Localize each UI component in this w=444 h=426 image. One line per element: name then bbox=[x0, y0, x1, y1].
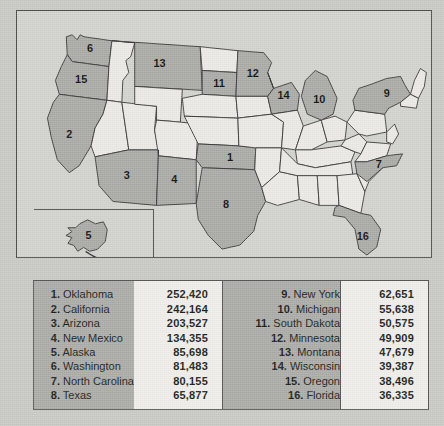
table-row: 7. North Carolina bbox=[43, 374, 134, 388]
map-label-9: 9 bbox=[384, 87, 390, 99]
rank: 11. bbox=[253, 316, 270, 330]
rank: 14. bbox=[270, 359, 287, 373]
map-label-1: 1 bbox=[227, 151, 233, 163]
state-name: New York bbox=[294, 288, 340, 300]
rank: 10. bbox=[276, 302, 293, 316]
state-name: California bbox=[63, 303, 109, 315]
rank: 12. bbox=[269, 331, 286, 345]
rank-table: 1. Oklahoma 2. California 3. Arizona 4. … bbox=[33, 280, 429, 410]
table-row: 4. New Mexico bbox=[43, 331, 134, 345]
map-panel: 1 2 3 4 6 7 8 9 10 11 12 13 14 15 16 5 bbox=[16, 10, 432, 258]
table-row: 14. Wisconsin bbox=[232, 359, 340, 373]
state-name: Oklahoma bbox=[63, 288, 113, 300]
table-value: 50,575 bbox=[379, 316, 414, 330]
table-row: 5. Alaska bbox=[43, 345, 134, 359]
table-value: 203,527 bbox=[167, 316, 208, 330]
map-label-14: 14 bbox=[277, 89, 289, 101]
map-label-3: 3 bbox=[124, 169, 130, 181]
map-label-2: 2 bbox=[66, 128, 72, 140]
table-value: 65,877 bbox=[173, 388, 208, 402]
rank: 8. bbox=[43, 388, 60, 402]
table-row: 12. Minnesota bbox=[232, 331, 340, 345]
table-value: 55,638 bbox=[379, 302, 414, 316]
table-row: 6. Washington bbox=[43, 359, 134, 373]
rank: 7. bbox=[43, 374, 60, 388]
state-name: Oregon bbox=[303, 375, 340, 387]
rank: 3. bbox=[43, 316, 60, 330]
table-row: 13. Montana bbox=[232, 345, 340, 359]
table-value: 252,420 bbox=[167, 287, 208, 301]
table-row: 3. Arizona bbox=[43, 316, 134, 330]
table-col-names-right: 9. New York 10. Michigan 11. South Dakot… bbox=[223, 281, 341, 409]
rank: 4. bbox=[43, 331, 60, 345]
map-label-15: 15 bbox=[75, 73, 87, 85]
state-name: Alaska bbox=[62, 346, 95, 358]
table-value: 38,496 bbox=[379, 374, 414, 388]
rank: 13. bbox=[277, 345, 294, 359]
map-label-10: 10 bbox=[313, 93, 325, 105]
table-value: 36,335 bbox=[379, 388, 414, 402]
rank: 9. bbox=[273, 287, 290, 301]
rank: 16. bbox=[286, 388, 303, 402]
rank: 5. bbox=[43, 345, 60, 359]
map-label-12: 12 bbox=[247, 67, 259, 79]
state-name: Arizona bbox=[62, 317, 99, 329]
table-value: 81,483 bbox=[173, 359, 208, 373]
state-name: North Carolina bbox=[63, 375, 134, 387]
rank: 1. bbox=[43, 287, 60, 301]
table-col-names-left: 1. Oklahoma 2. California 3. Arizona 4. … bbox=[34, 281, 134, 409]
map-label-8: 8 bbox=[223, 198, 229, 210]
table-row: 11. South Dakota bbox=[232, 316, 340, 330]
table-value: 85,698 bbox=[173, 345, 208, 359]
table-row: 15. Oregon bbox=[232, 374, 340, 388]
map-label-11: 11 bbox=[213, 77, 225, 89]
state-name: Texas bbox=[63, 389, 92, 401]
table-row: 8. Texas bbox=[43, 388, 134, 402]
alaska-inset: 5 bbox=[34, 209, 154, 258]
table-col-values-left: 252,420 242,164 203,527 134,355 85,698 8… bbox=[134, 281, 223, 409]
table-value: 47,679 bbox=[379, 345, 414, 359]
table-row: 2. California bbox=[43, 302, 134, 316]
map-label-13: 13 bbox=[153, 57, 165, 69]
alaska-shape: 5 bbox=[34, 210, 153, 258]
map-label-16: 16 bbox=[357, 230, 369, 242]
rank: 15. bbox=[283, 374, 300, 388]
table-value: 80,155 bbox=[173, 374, 208, 388]
table-value: 134,355 bbox=[167, 331, 208, 345]
table-value: 242,164 bbox=[167, 302, 208, 316]
table-value: 62,651 bbox=[379, 287, 414, 301]
table-value: 39,387 bbox=[379, 359, 414, 373]
rank: 6. bbox=[43, 359, 60, 373]
state-name: Washington bbox=[63, 360, 121, 372]
table-value: 49,909 bbox=[379, 331, 414, 345]
state-name: New Mexico bbox=[63, 332, 123, 344]
state-name: Wisconsin bbox=[290, 360, 340, 372]
table-row: 1. Oklahoma bbox=[43, 287, 134, 301]
table-row: 16. Florida bbox=[232, 388, 340, 402]
state-name: Florida bbox=[306, 389, 340, 401]
state-name: Montana bbox=[297, 346, 340, 358]
table-col-values-right: 62,651 55,638 50,575 49,909 47,679 39,38… bbox=[341, 281, 428, 409]
state-name: South Dakota bbox=[273, 317, 340, 329]
state-name: Michigan bbox=[296, 303, 340, 315]
map-label-7: 7 bbox=[376, 158, 382, 170]
map-label-5: 5 bbox=[86, 229, 92, 241]
table-row: 10. Michigan bbox=[232, 302, 340, 316]
map-label-6: 6 bbox=[87, 42, 93, 54]
table-row: 9. New York bbox=[232, 287, 340, 301]
state-name: Minnesota bbox=[289, 332, 340, 344]
rank: 2. bbox=[43, 302, 60, 316]
map-label-4: 4 bbox=[171, 173, 177, 185]
